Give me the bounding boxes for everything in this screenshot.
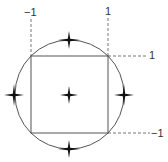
label-x-neg: −1 [24, 6, 37, 18]
star-top-icon [58, 31, 80, 49]
dashed-guides [31, 18, 150, 133]
label-y-pos: 1 [149, 49, 155, 61]
star-right-icon [114, 84, 134, 106]
label-y-neg: −1 [151, 127, 164, 139]
star-left-icon [4, 84, 24, 106]
label-x-pos: 1 [105, 5, 111, 17]
inscribed-square-diagram: −1 1 1 −1 [0, 0, 168, 162]
star-markers [4, 31, 134, 158]
star-bottom-icon [58, 140, 80, 158]
star-center-icon [60, 86, 78, 104]
